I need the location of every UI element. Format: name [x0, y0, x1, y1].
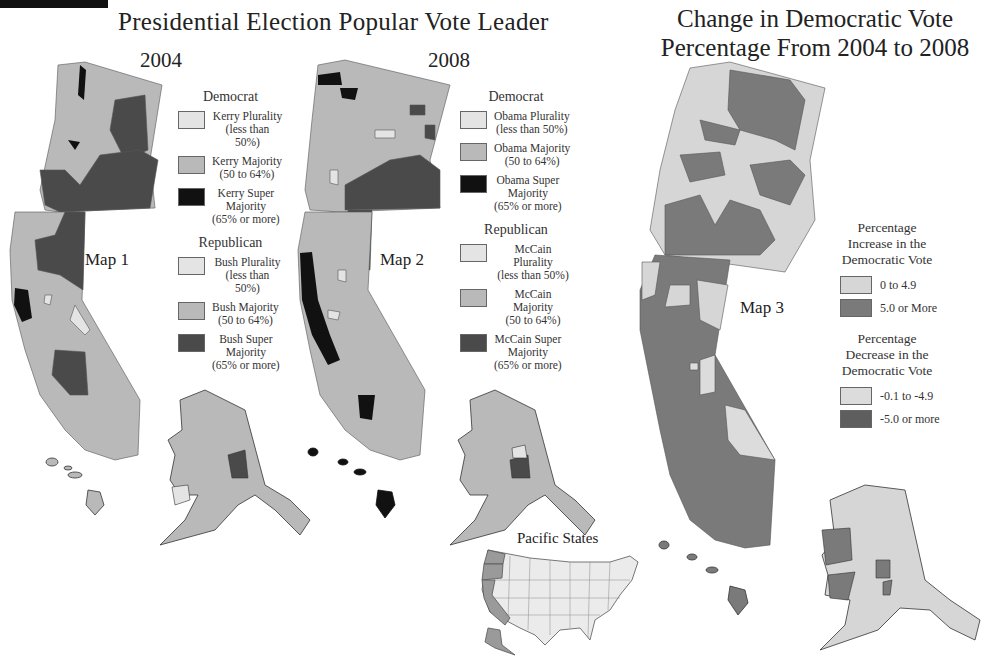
us-locator-map [470, 550, 650, 660]
inset-title: Pacific States [517, 530, 598, 547]
legend-swatch-increase-high [840, 299, 872, 317]
map3-decrease-heading: Percentage Decrease in the Democratic Vo… [826, 331, 948, 379]
map3-legend-item: 0 to 4.9 [840, 276, 948, 294]
map3-legend-item: 5.0 or More [840, 299, 948, 317]
map3-legend-item: -0.1 to -4.9 [840, 387, 948, 405]
legend-swatch-decrease-high [840, 410, 872, 428]
legend-swatch-decrease-low [840, 387, 872, 405]
map3-label: Map 3 [740, 298, 784, 318]
map3-legend: Percentage Increase in the Democratic Vo… [826, 220, 948, 433]
map3-increase-heading: Percentage Increase in the Democratic Vo… [826, 220, 948, 268]
legend-swatch-increase-low [840, 276, 872, 294]
map3-legend-item: -5.0 or more [840, 410, 948, 428]
